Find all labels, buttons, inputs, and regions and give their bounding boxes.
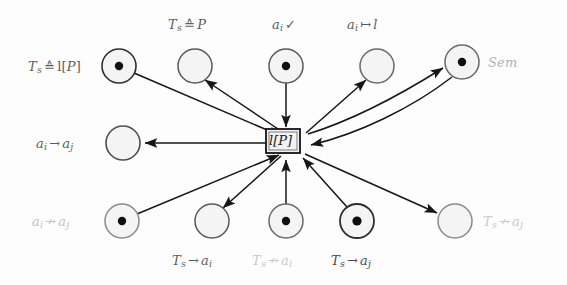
- token-dot: [458, 58, 466, 66]
- arc-t-to-ai-maps-l: [306, 80, 366, 133]
- transition-label: l[P]: [269, 134, 292, 147]
- token-dot: [282, 62, 290, 70]
- place-ts-eq-p[interactable]: [178, 49, 212, 83]
- token-dot: [282, 217, 290, 225]
- petri-net-figure: l[P] Ts≙l[P] Ts≙P ai✓ ai↦l Sem ai→aj ai↛…: [0, 0, 567, 285]
- place-label-ai-check: ai✓: [272, 18, 298, 33]
- arc-t-to-ts-eq-p: [205, 80, 284, 133]
- place-sem[interactable]: [445, 45, 479, 79]
- place-label-ts-eq-p: Ts≙P: [168, 18, 206, 33]
- place-label-ts-eq-lp: Ts≙l[P]: [28, 60, 81, 75]
- arc-t-to-ts-to-ai: [223, 156, 281, 208]
- place-ts-nto-aj[interactable]: [438, 204, 472, 238]
- place-ai-nto-aj[interactable]: [105, 204, 139, 238]
- place-label-ts-to-ai: Ts→ai: [172, 254, 212, 269]
- place-ai-maps-l[interactable]: [360, 49, 394, 83]
- place-label-ai-maps-l: ai↦l: [347, 18, 378, 33]
- token-dot: [115, 62, 123, 70]
- place-label-ai-nto-aj: ai↛aj: [32, 215, 69, 230]
- place-ts-to-ai[interactable]: [195, 204, 229, 238]
- place-ai-check[interactable]: [269, 49, 303, 83]
- arc-t-to-ts-nto-aj: [305, 154, 437, 213]
- place-ts-to-aj[interactable]: [340, 204, 374, 238]
- token-dot: [118, 217, 126, 225]
- place-label-ts-nto-ai: Ts↛ai: [252, 254, 292, 269]
- place-ai-to-aj[interactable]: [106, 126, 140, 160]
- place-label-sem: Sem: [488, 56, 518, 69]
- arc-sem-to-t: [311, 77, 452, 145]
- place-label-ai-to-aj: ai→aj: [36, 137, 73, 152]
- arc-ts-to-aj-to-t: [303, 158, 347, 207]
- place-label-ts-to-aj: Ts→aj: [331, 254, 371, 269]
- place-ts-nto-ai[interactable]: [269, 204, 303, 238]
- place-label-ts-nto-aj: Ts↛aj: [483, 215, 523, 230]
- place-ts-eq-lp[interactable]: [102, 49, 136, 83]
- token-dot: [352, 216, 361, 225]
